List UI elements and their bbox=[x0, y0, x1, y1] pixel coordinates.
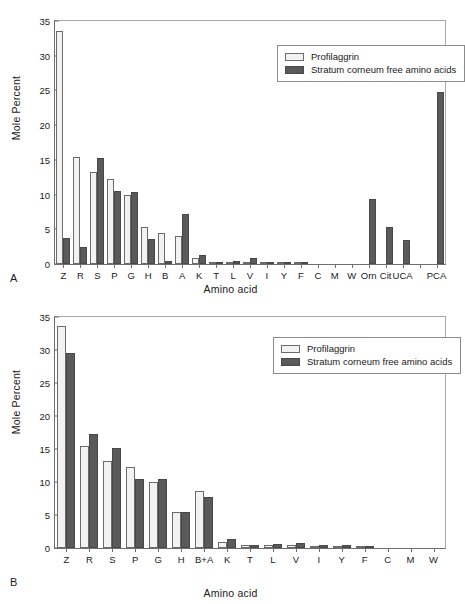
y-tick-mark bbox=[55, 21, 59, 22]
plot-wrap-a: Mole Percent Amino acid 05101520253035 Z… bbox=[0, 0, 461, 300]
x-tick-label: A bbox=[179, 270, 185, 281]
y-tick-30: 30 bbox=[39, 345, 55, 356]
bar-H-s1 bbox=[181, 512, 190, 548]
x-tick-mark bbox=[250, 264, 251, 268]
x-tick-mark bbox=[386, 264, 387, 268]
bar-G-s1 bbox=[158, 479, 167, 548]
x-tick-mark bbox=[182, 264, 183, 268]
x-tick-label: R bbox=[77, 270, 84, 281]
legend-swatch-stratum-corneum bbox=[281, 358, 300, 366]
x-tick-mark bbox=[267, 264, 268, 268]
y-tick-15: 15 bbox=[39, 154, 55, 165]
bar-PCA-s1 bbox=[437, 92, 444, 264]
x-tick-mark bbox=[411, 548, 412, 552]
plot-area-b: 05101520253035 ZRSPGHB+AKTLVIYFCMW Profi… bbox=[54, 316, 446, 549]
x-tick-mark bbox=[319, 548, 320, 552]
x-tick-label: F bbox=[298, 270, 304, 281]
x-tick-mark bbox=[284, 264, 285, 268]
legend-swatch-profilaggrin bbox=[281, 345, 300, 353]
bar-Z-s1 bbox=[66, 353, 75, 548]
x-tick-label: Orn bbox=[361, 270, 377, 281]
x-tick-label: M bbox=[331, 270, 339, 281]
x-tick-mark bbox=[318, 264, 319, 268]
bar-S-s1 bbox=[112, 448, 121, 548]
x-tick-mark bbox=[388, 548, 389, 552]
bar-B+A-s0 bbox=[195, 491, 204, 548]
bar-P-s1 bbox=[135, 479, 144, 548]
x-tick-mark bbox=[273, 548, 274, 552]
x-tick-mark bbox=[114, 264, 115, 268]
x-tick-mark bbox=[403, 264, 404, 268]
bar-H-s0 bbox=[172, 512, 181, 548]
bar-B+A-s1 bbox=[204, 497, 213, 548]
x-tick-mark bbox=[301, 264, 302, 268]
bar-S-s0 bbox=[103, 461, 112, 548]
y-tick-30: 30 bbox=[39, 50, 55, 61]
x-tick-label: K bbox=[196, 270, 202, 281]
legend-label-profilaggrin: Profilaggrin bbox=[311, 51, 359, 62]
x-tick-mark bbox=[165, 264, 166, 268]
y-tick-5: 5 bbox=[45, 510, 55, 521]
x-tick-mark bbox=[135, 548, 136, 552]
x-tick-label: PCA bbox=[427, 270, 447, 281]
plot-area-a: 05101520253035 ZRSPGHBAKTLVIYFCMWOrnCitU… bbox=[54, 20, 446, 265]
legend-label-stratum-corneum: Stratum corneum free amino acids bbox=[311, 64, 456, 75]
x-tick-mark bbox=[131, 264, 132, 268]
x-tick-label: Cit bbox=[380, 270, 392, 281]
x-tick-label: Y bbox=[339, 554, 345, 565]
bar-A-s0 bbox=[175, 236, 182, 264]
bar-Cit-s1 bbox=[386, 227, 393, 264]
x-tick-mark bbox=[342, 548, 343, 552]
plot-wrap-b: Mole Percent Amino acid 05101520253035 Z… bbox=[0, 300, 461, 600]
x-tick-label: H bbox=[145, 270, 152, 281]
y-tick-5: 5 bbox=[45, 224, 55, 235]
y-tick-25: 25 bbox=[39, 378, 55, 389]
bar-G-s0 bbox=[149, 482, 158, 548]
x-tick-label: Y bbox=[281, 270, 287, 281]
x-tick-label: M bbox=[407, 554, 415, 565]
x-tick-mark bbox=[227, 548, 228, 552]
y-tick-15: 15 bbox=[39, 444, 55, 455]
y-tick-35: 35 bbox=[39, 16, 55, 27]
y-tick-mark bbox=[55, 317, 59, 318]
x-tick-mark bbox=[181, 548, 182, 552]
x-tick-label: L bbox=[270, 554, 275, 565]
bar-S-s0 bbox=[90, 172, 97, 264]
x-tick-label: I bbox=[266, 270, 269, 281]
x-tick-mark bbox=[158, 548, 159, 552]
x-tick-mark bbox=[233, 264, 234, 268]
x-tick-label: T bbox=[213, 270, 219, 281]
x-tick-label: I bbox=[317, 554, 320, 565]
x-tick-mark bbox=[420, 264, 421, 268]
bar-P-s0 bbox=[107, 179, 114, 264]
x-tick-label: UCA bbox=[393, 270, 413, 281]
x-tick-label: P bbox=[132, 554, 138, 565]
x-tick-mark bbox=[437, 264, 438, 268]
bar-Z-s0 bbox=[56, 31, 63, 264]
panel-b: B Mole Percent Amino acid 05101520253035… bbox=[0, 300, 461, 604]
y-tick-35: 35 bbox=[39, 312, 55, 323]
bar-G-s0 bbox=[124, 195, 131, 264]
bar-S-s1 bbox=[97, 158, 104, 264]
x-tick-label: S bbox=[94, 270, 100, 281]
bar-K-s1 bbox=[199, 255, 206, 264]
x-tick-mark bbox=[80, 264, 81, 268]
x-tick-label: W bbox=[347, 270, 356, 281]
x-tick-label: W bbox=[429, 554, 438, 565]
y-tick-20: 20 bbox=[39, 120, 55, 131]
x-tick-mark bbox=[204, 548, 205, 552]
legend-label-profilaggrin: Profilaggrin bbox=[307, 343, 355, 354]
x-tick-mark bbox=[352, 264, 353, 268]
x-tick-label: C bbox=[384, 554, 391, 565]
x-tick-mark bbox=[89, 548, 90, 552]
y-tick-10: 10 bbox=[39, 189, 55, 200]
x-tick-label: V bbox=[247, 270, 253, 281]
x-tick-mark bbox=[199, 264, 200, 268]
x-tick-label: T bbox=[247, 554, 253, 565]
legend-label-stratum-corneum: Stratum corneum free amino acids bbox=[307, 356, 452, 367]
bar-B-s0 bbox=[158, 233, 165, 264]
bar-K-s1 bbox=[227, 539, 236, 548]
bar-A-s1 bbox=[182, 214, 189, 264]
x-tick-label: K bbox=[224, 554, 230, 565]
x-tick-label: G bbox=[128, 270, 135, 281]
